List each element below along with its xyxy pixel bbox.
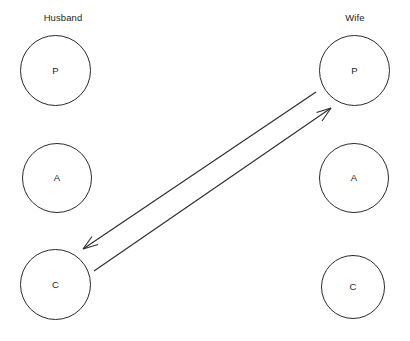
column-label-husband: Husband — [28, 12, 98, 23]
arrow-shaft — [83, 92, 316, 249]
node-label: C — [21, 280, 90, 290]
arrow-wife-parent-to-husband-child[interactable] — [83, 92, 316, 249]
node-label: A — [320, 173, 388, 183]
node-wife-parent[interactable]: P — [319, 35, 390, 106]
arrowhead — [83, 237, 98, 250]
arrow-husband-child-to-wife-parent[interactable] — [94, 108, 331, 271]
node-husband-child[interactable]: C — [20, 249, 91, 320]
node-label: P — [320, 66, 389, 76]
node-label: P — [21, 66, 90, 76]
node-label: C — [322, 282, 384, 292]
transaction-diagram: Husband Wife P A C P A C — [0, 0, 410, 341]
node-husband-adult[interactable]: A — [22, 143, 92, 213]
node-husband-parent[interactable]: P — [20, 35, 91, 106]
arrow-shaft — [94, 108, 331, 271]
node-wife-child[interactable]: C — [321, 255, 385, 319]
column-label-wife: Wife — [320, 12, 390, 23]
node-label: A — [23, 173, 91, 183]
node-wife-adult[interactable]: A — [319, 143, 389, 213]
arrowhead — [317, 108, 332, 121]
